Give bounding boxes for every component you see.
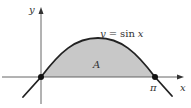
- equation-fn: sin: [120, 28, 135, 39]
- pi-label: π: [149, 82, 157, 93]
- pi-point: [152, 74, 158, 80]
- x-axis-arrow-icon: [177, 75, 184, 80]
- x-axis-label: x: [180, 82, 186, 93]
- sine-area-diagram: y x π A y=sinx: [0, 0, 191, 108]
- origin-point: [38, 74, 44, 80]
- equation-lhs: y: [99, 28, 106, 39]
- y-axis-label: y: [28, 4, 35, 15]
- equation-var: x: [138, 28, 144, 39]
- equation-equals: =: [109, 28, 117, 39]
- equation-label: y=sinx: [99, 28, 144, 39]
- area-label: A: [92, 59, 100, 70]
- y-axis-arrow-icon: [39, 7, 44, 14]
